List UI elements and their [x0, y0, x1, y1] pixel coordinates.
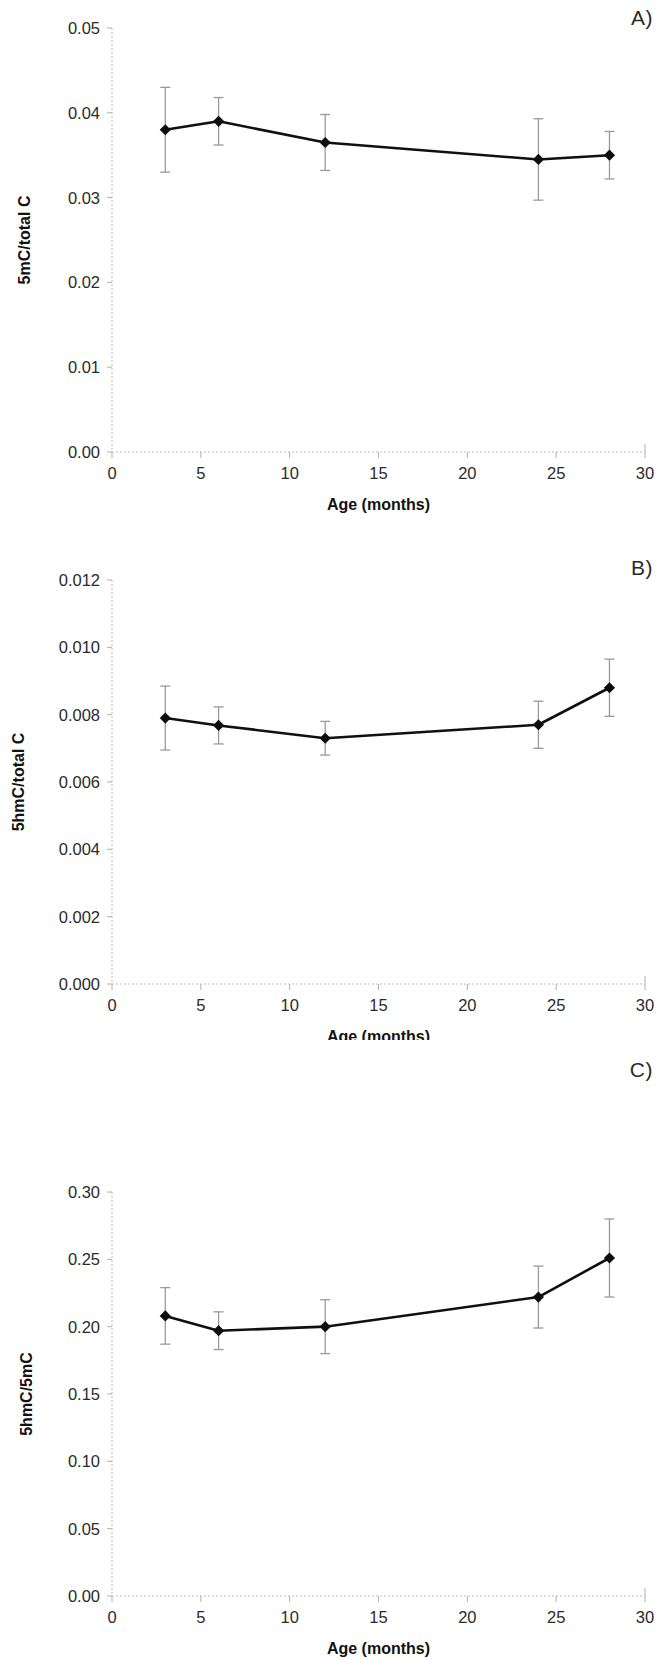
chart-panel-c: C) 0.000.050.100.150.200.250.30051015202…	[0, 1040, 671, 1659]
x-tick-label: 15	[369, 464, 387, 482]
y-tick-label: 0.25	[68, 1250, 100, 1268]
data-point-marker	[604, 682, 615, 693]
data-point-marker	[160, 1310, 171, 1321]
y-tick-label: 0.05	[68, 1520, 100, 1538]
x-tick-label: 0	[107, 996, 116, 1014]
y-tick-label: 0.10	[68, 1452, 100, 1470]
data-point-marker	[604, 150, 615, 161]
plot-area-a: 0.000.010.020.030.040.05051015202530Age …	[0, 0, 671, 520]
data-point-marker	[160, 712, 171, 723]
y-tick-label: 0.000	[59, 975, 100, 993]
x-tick-label: 15	[369, 1608, 387, 1626]
x-tick-label: 20	[458, 464, 476, 482]
y-tick-label: 0.00	[68, 443, 100, 461]
y-tick-label: 0.20	[68, 1318, 100, 1336]
x-tick-label: 25	[547, 1608, 565, 1626]
y-axis-title: 5hmC/5mC	[18, 1352, 35, 1436]
y-tick-label: 0.00	[68, 1587, 100, 1605]
x-tick-label: 30	[636, 996, 654, 1014]
x-tick-label: 15	[369, 996, 387, 1014]
plot-svg-c: 0.000.050.100.150.200.250.30051015202530…	[0, 1040, 671, 1659]
y-tick-label: 0.006	[59, 773, 100, 791]
x-tick-label: 10	[280, 1608, 298, 1626]
y-tick-label: 0.01	[68, 358, 100, 376]
x-tick-label: 30	[636, 464, 654, 482]
y-tick-label: 0.02	[68, 273, 100, 291]
y-tick-label: 0.04	[68, 104, 100, 122]
y-tick-label: 0.03	[68, 189, 100, 207]
data-point-marker	[533, 719, 544, 730]
series-line	[165, 1258, 609, 1331]
data-point-marker	[160, 124, 171, 135]
x-tick-label: 25	[547, 464, 565, 482]
y-tick-label: 0.010	[59, 638, 100, 656]
x-tick-label: 30	[636, 1608, 654, 1626]
plot-svg-b: 0.0000.0020.0040.0060.0080.0100.01205101…	[0, 520, 671, 1040]
y-tick-label: 0.008	[59, 706, 100, 724]
x-tick-label: 20	[458, 996, 476, 1014]
x-tick-label: 0	[107, 1608, 116, 1626]
data-point-marker	[533, 154, 544, 165]
x-tick-label: 5	[196, 464, 205, 482]
plot-svg-a: 0.000.010.020.030.040.05051015202530Age …	[0, 0, 671, 520]
data-point-marker	[320, 733, 331, 744]
data-point-marker	[320, 137, 331, 148]
x-tick-label: 20	[458, 1608, 476, 1626]
series-line	[165, 121, 609, 159]
y-axis-title: 5mC/total C	[16, 195, 33, 284]
chart-panel-b: B) 0.0000.0020.0040.0060.0080.0100.01205…	[0, 520, 671, 1040]
x-tick-label: 5	[196, 1608, 205, 1626]
x-axis-title: Age (months)	[327, 496, 430, 513]
y-tick-label: 0.004	[59, 840, 100, 858]
x-axis-title: Age (months)	[327, 1640, 430, 1657]
data-point-marker	[604, 1252, 615, 1263]
data-point-marker	[213, 116, 224, 127]
x-tick-label: 10	[280, 996, 298, 1014]
plot-area-c: 0.000.050.100.150.200.250.30051015202530…	[0, 1040, 671, 1659]
x-tick-label: 5	[196, 996, 205, 1014]
data-point-marker	[213, 1325, 224, 1336]
series-line	[165, 688, 609, 739]
y-tick-label: 0.05	[68, 19, 100, 37]
data-point-marker	[533, 1291, 544, 1302]
y-tick-label: 0.012	[59, 571, 100, 589]
x-tick-label: 10	[280, 464, 298, 482]
y-tick-label: 0.15	[68, 1385, 100, 1403]
x-axis-title: Age (months)	[327, 1028, 430, 1040]
y-axis-title: 5hmC/total C	[10, 732, 27, 831]
y-tick-label: 0.30	[68, 1183, 100, 1201]
plot-area-b: 0.0000.0020.0040.0060.0080.0100.01205101…	[0, 520, 671, 1040]
data-point-marker	[320, 1321, 331, 1332]
data-point-marker	[213, 720, 224, 731]
y-tick-label: 0.002	[59, 908, 100, 926]
chart-panel-a: A) 0.000.010.020.030.040.05051015202530A…	[0, 0, 671, 520]
x-tick-label: 25	[547, 996, 565, 1014]
x-tick-label: 0	[107, 464, 116, 482]
